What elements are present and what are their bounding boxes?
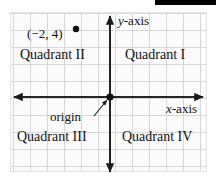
x-axis-label: x-axis (166, 102, 197, 115)
quadrant-1-label: Quadrant I (125, 48, 185, 62)
x-axis-label-suffix: -axis (172, 101, 197, 116)
y-axis-label: y-axis (118, 14, 149, 27)
figure-root: y-axis x-axis (−2, 4) origin Quadrant II… (0, 0, 216, 180)
origin-label: origin (50, 110, 81, 123)
y-axis-label-suffix: -axis (124, 13, 149, 28)
top-black-bar (155, 0, 216, 5)
point-coordinate-label: (−2, 4) (27, 27, 63, 40)
quadrant-3-label: Quadrant III (17, 130, 87, 144)
quadrant-4-label: Quadrant IV (122, 130, 192, 144)
quadrant-2-label: Quadrant II (20, 48, 85, 62)
